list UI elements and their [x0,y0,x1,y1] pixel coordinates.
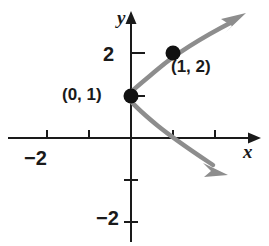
data-point-0-1 [124,89,139,104]
y-axis-arrowhead [126,11,137,24]
point-label-1-2: (1, 2) [171,58,211,75]
x-axis-label: x [243,142,253,161]
curve-lower-arrowhead [203,163,228,177]
point-label-0-1: (0, 1) [62,86,102,103]
graph-figure: −2 2 −2 (0, 1) (1, 2) y x [0,0,269,246]
x-tick-label-neg2: −2 [24,148,47,168]
y-tick-label-2: 2 [103,44,114,64]
coordinate-plane-svg [0,0,269,246]
y-axis-label: y [117,8,125,27]
parabola-curve [127,22,232,165]
curve-upper-arrowhead [221,13,246,33]
y-tick-label-neg2: −2 [96,208,119,228]
